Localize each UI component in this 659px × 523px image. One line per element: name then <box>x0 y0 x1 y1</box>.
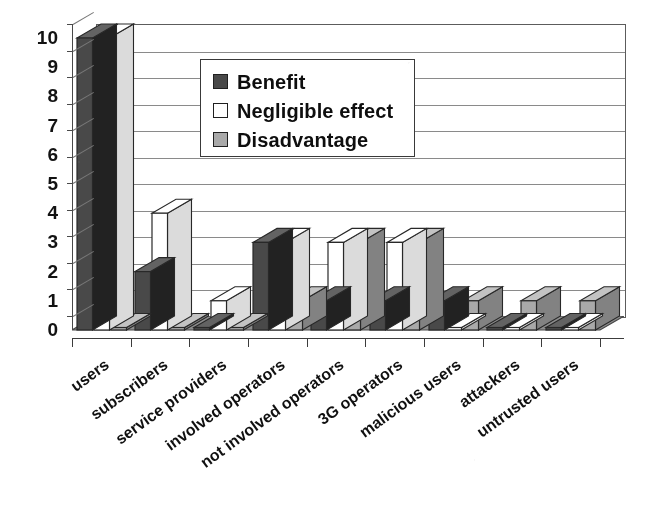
x-axis-category-labels: userssubscribersservice providersinvolve… <box>0 0 659 523</box>
bar-chart: 109876543210 Benefit Negligible effect D… <box>0 0 659 523</box>
